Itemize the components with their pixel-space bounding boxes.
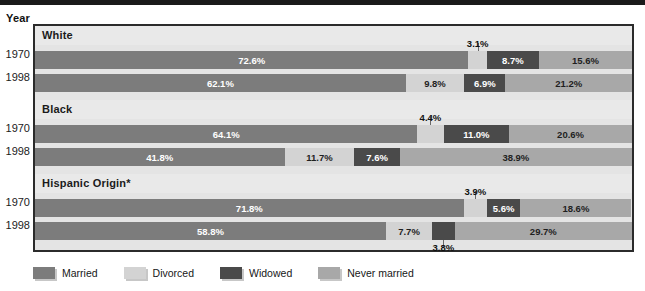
- segment-widowed[interactable]: 7.6%: [354, 148, 399, 166]
- segment-value-callout: 3.8%: [433, 242, 455, 253]
- segment-married[interactable]: 58.8%: [35, 222, 386, 240]
- year-tick-white-1970: 1970: [0, 48, 30, 60]
- legend-item-married[interactable]: Married: [33, 267, 98, 279]
- segment-married[interactable]: 62.1%: [35, 74, 406, 92]
- legend-item-divorced[interactable]: Divorced: [124, 267, 194, 279]
- group-header-hispanic: Hispanic Origin*: [35, 174, 632, 193]
- chart-root: Year 1970 1998 1970 1998 1970 1998 White…: [0, 0, 645, 291]
- bar-row-white-1970: 72.6% 3.1% 8.7% 15.6%: [35, 51, 632, 69]
- legend-item-never-married[interactable]: Never married: [318, 267, 414, 279]
- group-title-hispanic: Hispanic Origin*: [42, 177, 131, 189]
- top-rule: [0, 0, 645, 5]
- segment-divorced[interactable]: 3.9%: [464, 199, 487, 217]
- bar-row-black-1970: 64.1% 4.4% 11.0% 20.6%: [35, 125, 632, 143]
- segment-value-callout: 4.4%: [420, 112, 442, 123]
- legend-label-never-married: Never married: [347, 267, 414, 279]
- legend-label-divorced: Divorced: [153, 267, 194, 279]
- segment-widowed[interactable]: 3.8%: [432, 222, 455, 240]
- legend: Married Divorced Widowed Never married: [33, 262, 634, 284]
- segment-never-married[interactable]: 15.6%: [539, 51, 632, 69]
- group-title-black: Black: [42, 103, 72, 115]
- segment-widowed[interactable]: 11.0%: [444, 125, 510, 143]
- bar-row-hispanic-1970: 71.8% 3.9% 5.6% 18.6%: [35, 199, 632, 217]
- segment-married[interactable]: 41.8%: [35, 148, 285, 166]
- legend-label-widowed: Widowed: [249, 267, 292, 279]
- group-title-white: White: [42, 29, 73, 41]
- segment-divorced[interactable]: 9.8%: [406, 74, 465, 92]
- segment-never-married[interactable]: 18.6%: [520, 199, 631, 217]
- segment-married[interactable]: 72.6%: [35, 51, 468, 69]
- plot-area: White 72.6% 3.1% 8.7% 15.6%: [33, 24, 634, 252]
- segment-value-callout: 3.9%: [464, 186, 486, 197]
- segment-widowed[interactable]: 8.7%: [487, 51, 539, 69]
- segment-divorced[interactable]: 4.4%: [417, 125, 443, 143]
- group-header-black: Black: [35, 100, 632, 119]
- legend-label-married: Married: [62, 267, 98, 279]
- segment-value-callout: 3.1%: [467, 38, 489, 49]
- segment-divorced[interactable]: 3.1%: [468, 51, 487, 69]
- legend-swatch-divorced-icon: [124, 267, 146, 279]
- bar-row-hispanic-1998: 58.8% 7.7% 3.8% 29.7%: [35, 222, 632, 240]
- year-tick-white-1998: 1998: [0, 71, 30, 83]
- year-tick-black-1998: 1998: [0, 145, 30, 157]
- bar-row-white-1998: 62.1% 9.8% 6.9% 21.2%: [35, 74, 632, 92]
- legend-swatch-widowed-icon: [220, 267, 242, 279]
- bar-row-black-1998: 41.8% 11.7% 7.6% 38.9%: [35, 148, 632, 166]
- legend-swatch-never-married-icon: [318, 267, 340, 279]
- year-axis-header: Year: [6, 12, 30, 24]
- group-header-white: White: [35, 26, 632, 45]
- legend-swatch-married-icon: [33, 267, 55, 279]
- year-tick-hispanic-1998: 1998: [0, 219, 30, 231]
- year-tick-black-1970: 1970: [0, 122, 30, 134]
- segment-widowed[interactable]: 6.9%: [464, 74, 505, 92]
- year-tick-hispanic-1970: 1970: [0, 196, 30, 208]
- segment-never-married[interactable]: 38.9%: [400, 148, 632, 166]
- segment-divorced[interactable]: 11.7%: [285, 148, 355, 166]
- segment-widowed[interactable]: 5.6%: [487, 199, 520, 217]
- segment-never-married[interactable]: 20.6%: [509, 125, 632, 143]
- segment-never-married[interactable]: 29.7%: [455, 222, 632, 240]
- segment-married[interactable]: 71.8%: [35, 199, 464, 217]
- segment-divorced[interactable]: 7.7%: [386, 222, 432, 240]
- segment-married[interactable]: 64.1%: [35, 125, 417, 143]
- segment-never-married[interactable]: 21.2%: [505, 74, 632, 92]
- legend-item-widowed[interactable]: Widowed: [220, 267, 292, 279]
